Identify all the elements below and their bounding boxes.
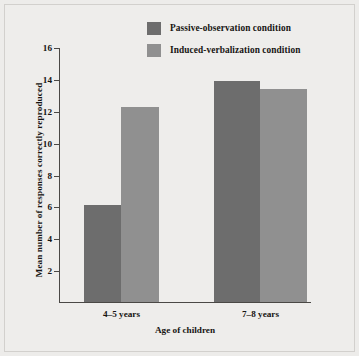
x-axis-title: Age of children bbox=[59, 325, 311, 335]
bar-passive-observation-4-5 bbox=[84, 205, 121, 302]
y-tick-mark bbox=[54, 144, 60, 145]
x-tick-label-group-1: 4–5 years bbox=[84, 309, 159, 319]
y-axis-title: Mean number of responses correctly repro… bbox=[34, 75, 44, 285]
y-tick-mark bbox=[54, 112, 60, 113]
y-tick-mark bbox=[54, 176, 60, 177]
bar-passive-observation-7-8 bbox=[214, 81, 260, 302]
x-tick-label-group-2: 7–8 years bbox=[214, 309, 307, 319]
y-tick-mark bbox=[54, 271, 60, 272]
x-axis-line bbox=[59, 302, 311, 303]
y-tick-label: 16 bbox=[30, 43, 52, 53]
y-tick-mark bbox=[54, 48, 60, 49]
bar-induced-verbalization-4-5 bbox=[121, 107, 159, 302]
y-tick-mark bbox=[54, 80, 60, 81]
chart-figure: Passive-observation condition Induced-ve… bbox=[0, 0, 359, 356]
y-tick-mark bbox=[54, 207, 60, 208]
plot-area: 16 14 12 10 8 6 4 2 Mean numb bbox=[0, 0, 359, 356]
bar-induced-verbalization-7-8 bbox=[260, 89, 307, 302]
y-tick-mark bbox=[54, 239, 60, 240]
